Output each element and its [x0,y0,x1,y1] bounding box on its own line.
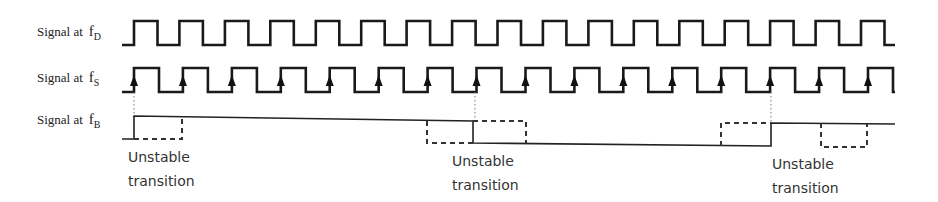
waveform-fS [122,68,895,92]
annotation-unstable-1: Unstable transition [128,149,195,189]
up-arrow-icon [375,75,383,86]
up-arrow-icon [473,75,481,86]
up-arrow-icon [521,75,529,86]
signal-label-fD: Signal atfD [37,23,101,42]
signal-label-fS: Signal atfS [37,69,99,88]
svg-text:Unstable: Unstable [128,149,190,165]
up-arrow-icon [570,75,578,86]
unstable-region-2b [473,121,526,143]
svg-text:Unstable: Unstable [452,153,514,169]
annotation-unstable-3: Unstable transition [772,156,839,196]
up-arrow-icon [668,75,676,86]
svg-text:Signal atfS: Signal atfS [37,69,99,88]
svg-text:Signal atfB: Signal atfB [37,111,101,130]
timing-diagram: Signal atfD Signal atfS Signal atfB Unst… [0,0,938,202]
up-arrow-icon [326,75,334,86]
unstable-region-1 [134,118,182,139]
up-arrow-icon [228,75,236,86]
svg-text:Unstable: Unstable [772,156,834,172]
svg-text:transition: transition [452,177,519,193]
up-arrow-icon [717,75,725,86]
unstable-region-2a [427,121,473,143]
up-arrow-icon [179,75,187,86]
svg-text:transition: transition [128,173,195,189]
svg-text:Signal atfD: Signal atfD [37,23,101,42]
signal-label-fB: Signal atfB [37,111,101,130]
up-arrow-icon [864,75,872,86]
waveform-fB [122,116,895,146]
up-arrow-icon [815,75,823,86]
svg-text:transition: transition [772,180,839,196]
up-arrow-icon [130,75,138,86]
up-arrow-icon [424,75,432,86]
waveform-fD [122,21,895,45]
annotation-unstable-2: Unstable transition [452,153,519,193]
up-arrow-icon [277,75,285,86]
up-arrow-icon [619,75,627,86]
unstable-region-3a [721,123,771,146]
up-arrow-icon [766,75,774,86]
unstable-region-3b [821,123,867,147]
